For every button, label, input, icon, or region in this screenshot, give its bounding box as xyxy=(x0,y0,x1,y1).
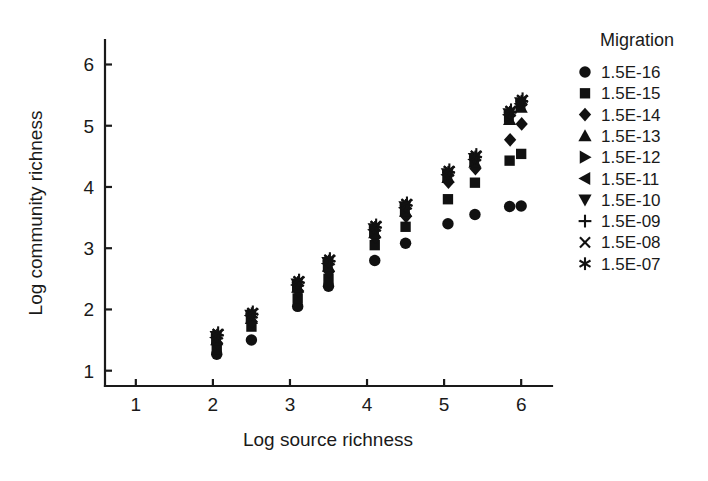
chart-canvas: 123456 123456 Log source richness Log co… xyxy=(0,0,708,481)
y-tick-label: 3 xyxy=(83,238,94,259)
legend-item-label: 1.5E-08 xyxy=(601,233,661,252)
data-point xyxy=(504,201,515,212)
data-point xyxy=(515,200,526,211)
data-point xyxy=(504,155,514,165)
data-point xyxy=(400,238,411,249)
legend-item-label: 1.5E-10 xyxy=(601,191,661,210)
legend-item-label: 1.5E-15 xyxy=(601,84,661,103)
y-tick-label: 6 xyxy=(83,54,94,75)
y-tick-label: 1 xyxy=(83,361,94,382)
legend-item-label: 1.5E-11 xyxy=(601,170,659,189)
legend-item-label: 1.5E-09 xyxy=(601,212,661,231)
data-point xyxy=(369,255,380,266)
data-point xyxy=(470,178,480,188)
data-point xyxy=(400,222,410,232)
x-tick-label: 6 xyxy=(516,394,527,415)
data-point xyxy=(442,218,453,229)
data-point xyxy=(443,194,453,204)
data-point xyxy=(246,334,257,345)
y-tick-label: 2 xyxy=(83,299,94,320)
legend-item-label: 1.5E-07 xyxy=(601,255,661,274)
x-tick-label: 3 xyxy=(285,394,296,415)
data-point xyxy=(516,149,526,159)
legend-item-label: 1.5E-13 xyxy=(601,127,661,146)
circle-icon xyxy=(579,66,590,77)
y-tick-label: 4 xyxy=(83,177,94,198)
legend-title: Migration xyxy=(600,30,674,50)
legend-item-label: 1.5E-14 xyxy=(601,106,661,125)
y-tick-label: 5 xyxy=(83,116,94,137)
x-tick-label: 2 xyxy=(208,394,219,415)
x-tick-label: 4 xyxy=(362,394,373,415)
scatter-plot-figure: 123456 123456 Log source richness Log co… xyxy=(0,0,708,481)
x-axis-title: Log source richness xyxy=(243,429,413,450)
y-axis-title: Log community richness xyxy=(25,111,46,316)
x-tick-label: 1 xyxy=(131,394,142,415)
data-point xyxy=(469,209,480,220)
square-icon xyxy=(580,88,590,98)
legend-item-label: 1.5E-12 xyxy=(601,148,661,167)
legend-item-label: 1.5E-16 xyxy=(601,63,661,82)
x-tick-label: 5 xyxy=(439,394,450,415)
